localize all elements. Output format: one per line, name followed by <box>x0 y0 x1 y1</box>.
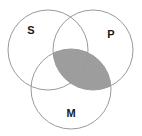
venn-diagram-figure: S P M <box>0 0 142 136</box>
circle-label-m: M <box>66 107 75 119</box>
circle-label-p: P <box>107 28 114 40</box>
venn-diagram-canvas: S P M <box>0 0 142 136</box>
circle-label-s: S <box>27 24 34 36</box>
